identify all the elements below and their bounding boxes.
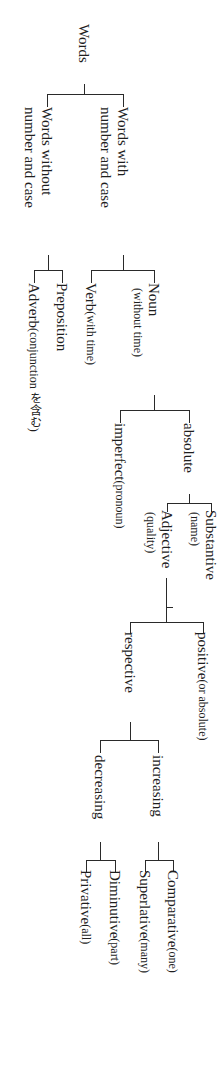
node-decreasing: decreasing xyxy=(92,755,108,819)
node-imperfect: imperfect(pronoun) xyxy=(112,423,128,528)
connector xyxy=(100,740,101,753)
connector xyxy=(123,255,124,271)
node-absolute: absolute xyxy=(181,423,197,473)
connector xyxy=(145,860,174,861)
comparative-label: Comparative xyxy=(165,870,181,947)
privative-label: Privative xyxy=(78,870,94,924)
imperfect-label: imperfect xyxy=(112,423,128,480)
node-respective: respective xyxy=(122,632,138,693)
adverb-label: Adverb xyxy=(26,283,42,328)
connector xyxy=(91,270,155,271)
node-adjective-note: (quality) xyxy=(144,512,157,553)
connector xyxy=(91,270,92,283)
node-substantive: Substantive xyxy=(203,510,219,580)
superlative-label: Superlative xyxy=(137,870,153,938)
connector xyxy=(48,255,49,271)
verb-label: Verb xyxy=(83,283,99,311)
node-increasing: increasing xyxy=(150,755,166,817)
node-words-without-number-and-case: Words without xyxy=(39,107,55,195)
node-substantive-note: (name) xyxy=(188,512,201,546)
node-positive: positive(or absolute) xyxy=(195,632,211,740)
positive-note: (or absolute) xyxy=(196,680,210,741)
adverb-note: (conjunction を含む) xyxy=(27,328,41,432)
diminutive-label: Diminutive xyxy=(107,870,123,938)
connector xyxy=(167,503,212,504)
connector xyxy=(158,842,159,861)
connector xyxy=(100,740,159,741)
node-diminutive: Diminutive(part) xyxy=(107,870,123,965)
node-words-with-number-and-case: Words with xyxy=(115,107,131,176)
node-comparative: Comparative(one) xyxy=(165,870,181,973)
connector xyxy=(120,410,121,423)
verb-note: (with time) xyxy=(84,311,98,365)
privative-note: (all) xyxy=(79,924,93,944)
node-adjective: Adjective xyxy=(159,510,175,568)
node-noun-note: (without time) xyxy=(131,288,144,357)
connector xyxy=(189,410,190,423)
connector xyxy=(34,270,35,283)
node-adverb: Adverb(conjunction を含む) xyxy=(26,283,42,432)
node-preposition: Preposition xyxy=(54,283,70,351)
node-noun: Noun xyxy=(146,283,162,316)
connector xyxy=(86,860,116,861)
connector xyxy=(62,270,63,283)
imperfect-note: (pronoun) xyxy=(113,480,127,528)
connector xyxy=(166,578,167,623)
positive-label: positive xyxy=(195,632,211,680)
connector xyxy=(123,94,124,107)
node-privative: Privative(all) xyxy=(78,870,94,944)
node-words: Words xyxy=(76,24,92,63)
comparative-note: (one) xyxy=(166,947,180,972)
connector xyxy=(130,722,131,741)
diminutive-note: (part) xyxy=(108,938,122,965)
connector xyxy=(120,410,190,411)
node-words-with-number-and-case-line2: number and case xyxy=(98,107,114,208)
node-words-without-number-and-case-line2: number and case xyxy=(22,107,38,208)
connector xyxy=(167,607,173,608)
connector xyxy=(154,395,155,411)
connector xyxy=(47,94,124,95)
connector xyxy=(100,842,101,861)
node-verb: Verb(with time) xyxy=(83,283,99,365)
connector xyxy=(47,94,48,107)
node-superlative: Superlative(many) xyxy=(137,870,153,973)
connector xyxy=(158,740,159,753)
superlative-note: (many) xyxy=(138,938,152,973)
connector xyxy=(130,622,204,623)
connector xyxy=(34,270,63,271)
connector xyxy=(154,270,155,283)
